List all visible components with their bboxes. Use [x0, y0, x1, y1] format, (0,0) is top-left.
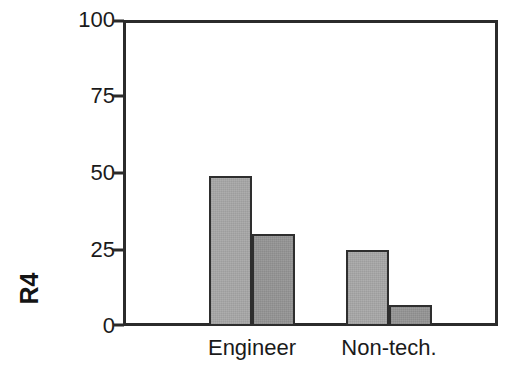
y-axis-title-text: R4: [18, 272, 43, 304]
y-tick-label-100: 100: [57, 9, 115, 31]
plot-area: [123, 20, 498, 326]
y-axis-title: R4: [0, 258, 60, 318]
y-axis-tick-labels: 100 75 50 25 0: [57, 0, 115, 374]
y-tick-label-0: 0: [57, 315, 115, 337]
x-category-label-engineer: Engineer: [208, 337, 296, 359]
bar-chart-figure: R4 100 75 50 25 0 Engineer Non-tech.: [0, 0, 505, 374]
y-tick-label-50: 50: [57, 162, 115, 184]
x-category-label-nontech: Non-tech.: [341, 337, 436, 359]
y-tick-label-75: 75: [57, 85, 115, 107]
y-tick-label-25: 25: [57, 239, 115, 261]
